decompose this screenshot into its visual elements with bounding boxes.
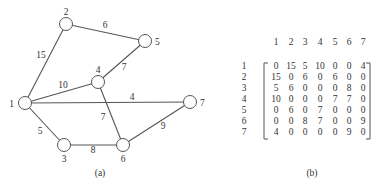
matrix-cell: 4	[274, 127, 279, 137]
matrix-caption: (b)	[306, 168, 317, 179]
matrix-cell: 0	[347, 61, 352, 71]
matrix-cells: 0155100041506060056000801000077006070000…	[271, 61, 365, 137]
matrix-right-bracket	[366, 63, 370, 139]
matrix-cell: 6	[333, 72, 338, 82]
matrix-cell: 7	[318, 105, 323, 115]
matrix-cell: 0	[289, 72, 294, 82]
edge-weight-label: 5	[38, 126, 43, 136]
matrix-cell: 7	[347, 94, 352, 104]
matrix-cell: 0	[361, 127, 366, 137]
matrix-cell: 6	[289, 105, 294, 115]
node-label: 6	[121, 154, 126, 164]
edge-1-3	[25, 103, 64, 145]
matrix-left-bracket	[264, 63, 268, 139]
edge-6-7	[123, 102, 190, 145]
node-2	[60, 18, 73, 31]
matrix-cell: 0	[289, 116, 294, 126]
matrix-cell: 7	[318, 116, 323, 126]
matrix-col-header: 7	[361, 37, 366, 47]
matrix-cell: 9	[361, 116, 366, 126]
matrix-cell: 8	[347, 83, 352, 93]
matrix-row-header: 1	[242, 61, 247, 71]
matrix-cell: 0	[333, 127, 338, 137]
node-3	[58, 139, 71, 152]
matrix-row-headers: 1234567	[242, 61, 247, 137]
matrix-cell: 0	[303, 94, 308, 104]
matrix-cell: 0	[303, 105, 308, 115]
node-label: 1	[9, 99, 14, 109]
node-5	[139, 35, 152, 48]
matrix-cell: 0	[318, 127, 323, 137]
matrix-cell: 7	[333, 94, 338, 104]
matrix-col-header: 2	[289, 37, 294, 47]
matrix-cell: 0	[274, 61, 279, 71]
matrix-cell: 0	[333, 105, 338, 115]
adjacency-matrix: 1234567 1234567 015510004150606005600080…	[242, 37, 370, 139]
node-label: 7	[200, 98, 205, 108]
node-label: 4	[96, 65, 101, 75]
matrix-col-header: 5	[333, 37, 338, 47]
node-7	[184, 96, 197, 109]
matrix-column-headers: 1234567	[274, 37, 366, 47]
graph-nodes	[19, 18, 197, 152]
matrix-cell: 0	[361, 105, 366, 115]
edge-weight-label: 9	[161, 121, 166, 131]
matrix-cell: 0	[347, 116, 352, 126]
matrix-cell: 0	[361, 72, 366, 82]
matrix-cell: 0	[274, 116, 279, 126]
matrix-row-header: 6	[242, 116, 247, 126]
matrix-cell: 0	[318, 72, 323, 82]
node-1	[19, 97, 32, 110]
matrix-cell: 4	[361, 61, 366, 71]
matrix-cell: 5	[274, 83, 279, 93]
matrix-cell: 6	[303, 72, 308, 82]
matrix-cell: 15	[286, 61, 296, 71]
node-6	[117, 139, 130, 152]
matrix-cell: 0	[303, 127, 308, 137]
matrix-cell: 10	[315, 61, 325, 71]
node-4	[92, 76, 105, 89]
matrix-row-header: 7	[242, 127, 247, 137]
matrix-cell: 0	[333, 61, 338, 71]
matrix-cell: 5	[303, 61, 308, 71]
matrix-cell: 0	[289, 127, 294, 137]
matrix-cell: 0	[333, 83, 338, 93]
figure-canvas: 15610747589 1234567 (a) 1234567 1234567 …	[0, 0, 387, 183]
graph-caption: (a)	[95, 168, 106, 179]
matrix-row-header: 5	[242, 105, 247, 115]
edge-weight-label: 8	[91, 145, 96, 155]
matrix-cell: 0	[318, 83, 323, 93]
edge-weight-label: 4	[130, 92, 135, 102]
matrix-cell: 0	[347, 72, 352, 82]
edge-weight-label: 7	[122, 62, 127, 72]
edge-weight-label: 7	[101, 112, 106, 122]
matrix-col-header: 6	[347, 37, 352, 47]
graph-node-labels: 1234567	[9, 7, 205, 164]
matrix-cell: 0	[361, 83, 366, 93]
matrix-cell: 15	[271, 72, 281, 82]
matrix-col-header: 4	[318, 37, 323, 47]
matrix-cell: 0	[361, 94, 366, 104]
edge-weight-label: 10	[58, 80, 68, 90]
matrix-col-header: 3	[303, 37, 308, 47]
matrix-row-header: 2	[242, 72, 247, 82]
node-label: 2	[64, 7, 69, 17]
node-label: 3	[62, 154, 67, 164]
matrix-cell: 8	[303, 116, 308, 126]
matrix-cell: 9	[347, 127, 352, 137]
node-label: 5	[155, 37, 160, 47]
matrix-cell: 0	[274, 105, 279, 115]
edge-weight-label: 15	[36, 50, 46, 60]
matrix-cell: 0	[318, 94, 323, 104]
matrix-col-header: 1	[274, 37, 279, 47]
matrix-cell: 10	[271, 94, 281, 104]
matrix-cell: 0	[289, 94, 294, 104]
edge-1-2	[25, 24, 66, 103]
edge-weight-label: 6	[103, 20, 108, 30]
matrix-cell: 0	[347, 105, 352, 115]
matrix-cell: 6	[289, 83, 294, 93]
edge-1-7	[25, 102, 190, 103]
matrix-row-header: 4	[242, 94, 247, 104]
matrix-row-header: 3	[242, 83, 247, 93]
matrix-cell: 0	[303, 83, 308, 93]
